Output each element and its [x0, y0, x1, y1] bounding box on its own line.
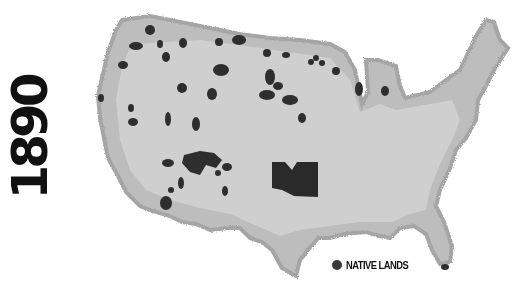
native-land-area	[179, 38, 187, 48]
native-land-area	[162, 159, 174, 167]
native-land-area	[162, 52, 170, 62]
native-land-area	[177, 83, 187, 93]
native-land-area	[118, 61, 128, 69]
native-land-area	[265, 69, 275, 85]
native-land-area	[313, 55, 319, 61]
native-land-area	[273, 82, 283, 90]
native-land-area	[160, 196, 172, 210]
native-land-area	[441, 264, 449, 270]
native-land-area	[332, 67, 340, 75]
native-land-area	[319, 60, 325, 66]
native-land-area	[207, 88, 217, 100]
native-land-area	[282, 52, 290, 58]
native-land-area	[168, 187, 174, 193]
native-land-area	[263, 49, 271, 57]
native-land-area	[157, 40, 163, 48]
native-land-area	[145, 25, 155, 35]
native-land-area	[192, 117, 200, 131]
native-land-area	[128, 104, 134, 112]
native-land-area	[222, 163, 232, 171]
legend-label: NATIVE LANDS	[346, 259, 408, 271]
native-land-area	[259, 90, 275, 100]
legend: NATIVE LANDS	[332, 259, 419, 271]
native-land-area	[178, 177, 184, 189]
native-land-area	[381, 86, 389, 96]
native-land-area	[165, 112, 171, 126]
native-land-area	[355, 82, 363, 96]
native-land-area	[129, 42, 143, 50]
native-land-area	[282, 95, 298, 105]
native-land-area	[98, 94, 104, 102]
us-map	[0, 0, 530, 296]
native-land-area	[308, 59, 314, 65]
native-land-area	[298, 113, 306, 123]
native-land-area	[215, 38, 223, 46]
legend-swatch-icon	[332, 260, 342, 270]
native-land-area	[213, 64, 229, 76]
native-land-area	[215, 170, 221, 176]
native-land-area	[128, 118, 138, 126]
native-land-area	[222, 186, 228, 196]
native-land-area	[232, 35, 246, 45]
